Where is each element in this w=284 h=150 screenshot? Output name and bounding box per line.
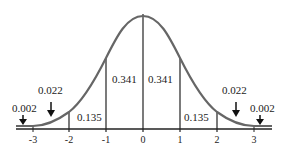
- down-arrow-icon: [47, 110, 55, 117]
- arrow-icons: [19, 102, 264, 125]
- tick-label: 1: [178, 134, 183, 145]
- label-right-022: 0.022: [222, 84, 247, 96]
- down-arrow-icon: [256, 119, 264, 125]
- label-left-tail: 0.002: [12, 102, 37, 114]
- down-arrow-icon: [232, 110, 240, 117]
- tick-label: 0: [141, 134, 146, 145]
- tick-label: -1: [102, 134, 110, 145]
- tick-label: 2: [215, 134, 220, 145]
- label-right-135: 0.135: [184, 111, 209, 123]
- label-right-tail: 0.002: [250, 102, 275, 114]
- x-tick-labels: -3 -2 -1 0 1 2 3: [29, 134, 257, 145]
- normal-distribution-chart: 0.002 0.022 0.135 0.341 0.341 0.135 0.02…: [0, 0, 284, 150]
- label-left-135: 0.135: [77, 111, 102, 123]
- tick-label: -2: [65, 134, 73, 145]
- label-left-341: 0.341: [112, 73, 137, 85]
- down-arrow-icon: [19, 119, 27, 125]
- bell-curve: [16, 16, 272, 126]
- tick-label: 3: [252, 134, 257, 145]
- label-right-341: 0.341: [148, 73, 173, 85]
- label-left-022: 0.022: [38, 84, 63, 96]
- tick-label: -3: [29, 134, 37, 145]
